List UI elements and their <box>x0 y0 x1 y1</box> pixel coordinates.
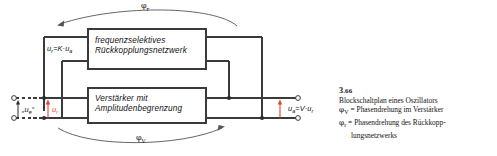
input-voltage-close-quote: “ <box>32 105 35 114</box>
node-out-bottom <box>260 116 264 120</box>
arc-phi-r-arrowhead <box>57 21 64 27</box>
node-ur-top <box>42 96 46 100</box>
caption-phi-r-text: = Phasendrehung des Rückkopp- <box>348 118 446 127</box>
output-equation: ua=V·ur <box>288 104 313 114</box>
arrow-ua-head <box>278 100 282 105</box>
arrow-ue-head <box>16 100 20 105</box>
node-out-top <box>227 96 231 100</box>
feedback-network-label-line2: Rückkopplungsnetzwerk <box>95 46 187 56</box>
arc-phi-v-sub: V <box>142 138 146 144</box>
terminal-input-top <box>12 96 17 101</box>
caption-number-sub: .66 <box>343 87 352 95</box>
caption-item-phi-v: φV = Phasendrehung im Verstärker <box>339 105 494 118</box>
terminal-output-top <box>296 96 301 101</box>
terminal-output-bottom <box>296 116 301 121</box>
output-eq-rhs-sub: r <box>312 108 314 114</box>
arc-phi-r-sub: r <box>147 6 150 12</box>
feedback-voltage-label: ur <box>52 105 58 115</box>
input-voltage-label: „ue“ <box>22 105 34 115</box>
node-ur-bottom <box>42 116 46 120</box>
caption-phi-v-text: = Phasendrehung im Verstärker <box>351 105 444 114</box>
feedback-network-label: frequenzselektives Rückkopplungsnetzwerk <box>95 36 187 56</box>
amplifier-label-line2: Amplitudenbegrenzung <box>95 104 182 114</box>
caption-item-phi-r: φr = Phasendrehung des Rückkopp- <box>339 118 494 131</box>
feedback-equation: ur=K·ua <box>47 44 72 54</box>
input-voltage-open-quote: „u <box>22 105 29 114</box>
figure-caption: 3.66 Blockschaltplan eines Oszillators φ… <box>339 86 494 140</box>
arrow-ur-head <box>46 100 50 105</box>
amplifier-label: Verstärker mit Amplitudenbegrenzung <box>95 94 182 114</box>
caption-number: 3.66 <box>339 86 494 96</box>
caption-continuation: lungsnetzwerks <box>339 131 494 140</box>
feedback-network-label-line1: frequenzselektives <box>95 36 187 46</box>
caption-phi-r-sub: r <box>344 123 346 129</box>
terminal-input-bottom <box>12 116 17 121</box>
amplifier-label-line1: Verstärker mit <box>95 94 182 104</box>
feedback-eq-rhs-sub: a <box>69 48 72 54</box>
feedback-voltage-sub: r <box>56 109 58 115</box>
arc-phi-r <box>60 10 237 26</box>
arc-label-phi-v: φV <box>136 133 146 144</box>
diagram-canvas <box>0 0 340 156</box>
caption-phi-v-sub: V <box>344 110 348 116</box>
arc-label-phi-r: φr <box>141 1 149 12</box>
caption-title: Blockschaltplan eines Oszillators <box>339 96 494 105</box>
arc-phi-v-arrowhead <box>218 125 225 131</box>
